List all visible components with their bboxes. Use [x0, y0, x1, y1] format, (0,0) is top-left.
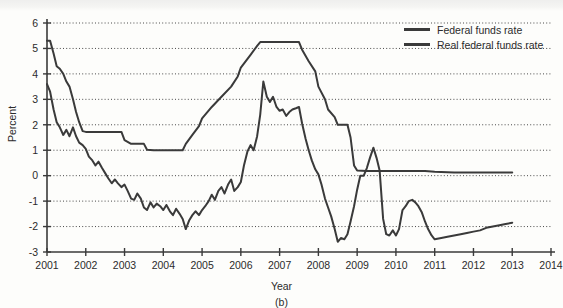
legend-swatch-icon: [404, 28, 430, 31]
y-axis-tick-label: 1: [32, 144, 38, 156]
x-axis-tick-label: 2005: [190, 259, 214, 271]
x-axis-tick-label: 2007: [268, 259, 292, 271]
y-axis-tick-label: 3: [32, 93, 38, 105]
y-axis-tick-label: 0: [32, 169, 38, 181]
series-line-real-federal-funds-rate: [47, 82, 512, 242]
y-axis-tick-label: -2: [29, 220, 38, 232]
x-axis-tick-label: 2013: [501, 259, 525, 271]
x-axis-label: Year: [0, 280, 563, 292]
x-axis-tick-label: 2010: [384, 259, 408, 271]
x-axis-tick-label: 2004: [152, 259, 176, 271]
x-axis-tick-label: 2001: [35, 259, 59, 271]
legend-item-federal-funds-rate: Federal funds rate: [404, 22, 543, 37]
panel-caption: (b): [0, 296, 563, 308]
y-axis-tick-label: 2: [32, 119, 38, 131]
y-axis-tick-label: -1: [29, 195, 38, 207]
x-axis-tick-label: 2011: [423, 259, 446, 271]
legend-label: Federal funds rate: [437, 24, 522, 36]
y-axis-tick-label: 4: [32, 68, 38, 80]
y-axis-tick-label: -3: [29, 246, 38, 258]
x-axis-tick-label: 2012: [462, 259, 486, 271]
chart-legend: Federal funds rate Real federal funds ra…: [404, 22, 543, 52]
y-axis-tick-label: 6: [32, 17, 38, 29]
x-axis-tick-label: 2014: [539, 259, 563, 271]
y-axis-tick-label: 5: [32, 42, 38, 54]
x-axis-tick-label: 2009: [345, 259, 369, 271]
y-axis-label: Percent: [6, 94, 18, 154]
legend-label: Real federal funds rate: [437, 39, 543, 51]
x-axis-tick-label: 2003: [113, 259, 137, 271]
series-line-federal-funds-rate: [47, 41, 512, 173]
legend-item-real-federal-funds-rate: Real federal funds rate: [404, 37, 543, 52]
x-axis-tick-label: 2002: [74, 259, 98, 271]
x-axis-tick-label: 2006: [229, 259, 253, 271]
legend-swatch-icon: [404, 43, 430, 46]
x-axis-tick-label: 2008: [307, 259, 331, 271]
